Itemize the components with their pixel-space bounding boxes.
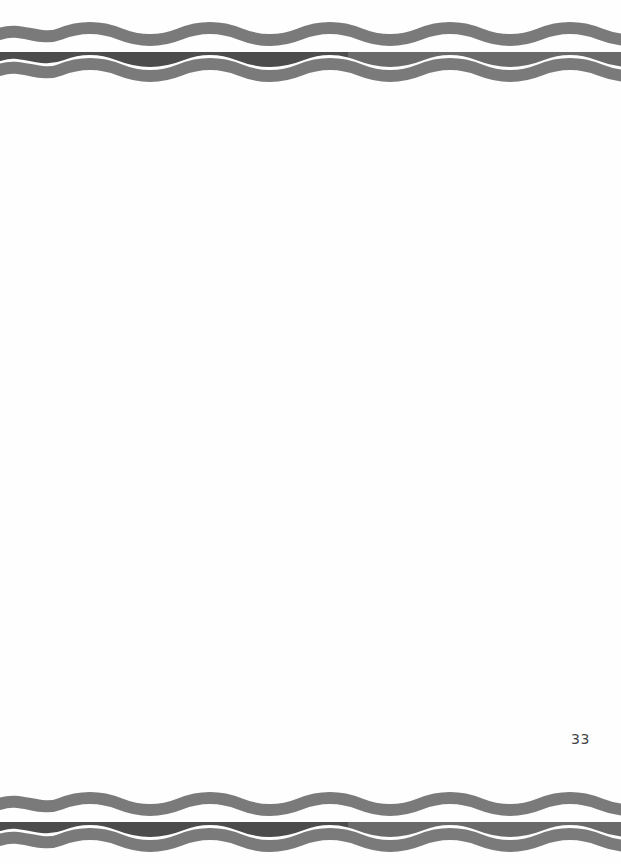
bottom-decorative-border <box>0 790 621 854</box>
page-number: 33 <box>571 731 590 747</box>
wavy-border-graphic <box>0 20 621 84</box>
wavy-border-graphic <box>0 790 621 854</box>
top-decorative-border <box>0 20 621 84</box>
